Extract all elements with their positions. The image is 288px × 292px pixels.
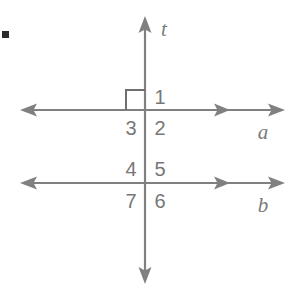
angle-label-7: 7 — [125, 190, 136, 212]
angle-label-3: 3 — [125, 117, 136, 139]
transversal-line-t — [139, 16, 152, 284]
geometry-figure: t a b 1 3 2 4 5 7 6 — [0, 0, 288, 292]
line-b — [20, 177, 285, 190]
line-a — [20, 104, 285, 117]
angle-label-5: 5 — [154, 158, 165, 180]
line-label-a: a — [258, 120, 269, 144]
geometry-diagram-canvas: t a b 1 3 2 4 5 7 6 — [0, 0, 288, 292]
transversal-label-t: t — [161, 17, 168, 41]
angle-label-6: 6 — [154, 190, 165, 212]
angle-label-2: 2 — [154, 117, 165, 139]
angle-label-1: 1 — [154, 86, 165, 108]
right-angle-marker-icon — [126, 90, 145, 110]
line-label-b: b — [258, 193, 269, 217]
angle-label-4: 4 — [125, 158, 136, 180]
square-bullet-icon — [2, 31, 9, 38]
